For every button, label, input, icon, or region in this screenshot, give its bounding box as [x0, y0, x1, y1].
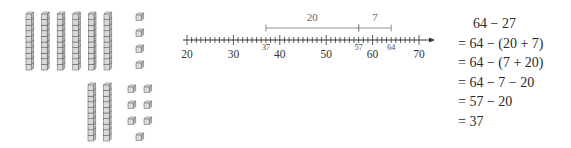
- axis-label: 40: [274, 48, 286, 60]
- unit-cube: [144, 101, 152, 109]
- axis-label: 70: [413, 48, 425, 60]
- unit-cube: [136, 45, 144, 53]
- axis-label: 30: [228, 48, 240, 60]
- ten-rod: [57, 12, 65, 70]
- point-label: 37: [262, 43, 270, 52]
- equation-steps: 64 − 27 = 64 − (20 + 7) = 64 − (7 + 20) …: [458, 14, 571, 132]
- arrow-icon: [429, 38, 435, 43]
- jump-label: 20: [307, 11, 319, 23]
- equation-line: = 64 − (7 + 20): [458, 53, 571, 73]
- jump-label: 7: [372, 11, 378, 23]
- point-label: 64: [387, 43, 395, 52]
- unit-cube: [128, 117, 136, 125]
- equation-line: = 57 − 20: [458, 92, 571, 112]
- unit-cube: [144, 117, 152, 125]
- number-line: 203040506070375764207: [175, 0, 435, 90]
- unit-cube: [128, 85, 136, 93]
- unit-cube: [144, 85, 152, 93]
- base-ten-blocks: [0, 0, 170, 148]
- equation-line: 64 − 27: [458, 14, 571, 34]
- unit-cube: [136, 133, 144, 141]
- ten-rod: [42, 12, 50, 70]
- ten-rod: [26, 12, 34, 70]
- axis-label: 60: [367, 48, 379, 60]
- unit-cube: [136, 29, 144, 37]
- axis-label: 50: [320, 48, 332, 60]
- point-label: 57: [355, 43, 363, 52]
- axis-label: 20: [181, 48, 193, 60]
- ten-rod: [73, 12, 81, 70]
- equation-line: = 64 − (20 + 7): [458, 34, 571, 54]
- ten-rod: [104, 83, 112, 141]
- ten-rod: [88, 83, 96, 141]
- unit-cube: [136, 13, 144, 21]
- equation-line: = 37: [458, 112, 571, 132]
- ten-rod: [88, 12, 96, 70]
- equation-line: = 64 − 7 − 20: [458, 73, 571, 93]
- ten-rod: [104, 12, 112, 70]
- unit-cube: [136, 61, 144, 69]
- unit-cube: [128, 101, 136, 109]
